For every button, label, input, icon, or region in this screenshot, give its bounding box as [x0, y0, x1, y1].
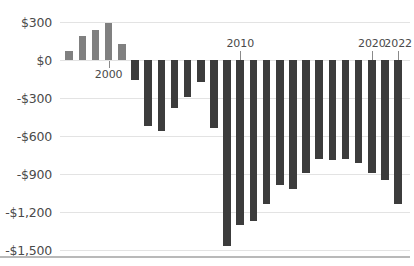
x-axis-tick-mark [398, 51, 399, 60]
bar [394, 60, 402, 204]
bar [184, 60, 192, 97]
bar [210, 60, 218, 128]
bar [131, 60, 139, 80]
x-axis-tick-label: 2020 [358, 37, 386, 50]
y-axis-tick-label: $0 [36, 53, 52, 68]
plot-area: 2000201020202022 [60, 0, 410, 250]
y-axis-tick-label: -$300 [17, 91, 52, 106]
y-axis-tick-label: -$600 [17, 129, 52, 144]
bar [158, 60, 166, 131]
bar [355, 60, 363, 163]
bar [105, 23, 113, 60]
bar [381, 60, 389, 180]
y-axis-tick-label: -$900 [17, 167, 52, 182]
bar [302, 60, 310, 173]
bar [250, 60, 258, 221]
bar [276, 60, 284, 185]
bar [342, 60, 350, 159]
bar [79, 36, 87, 60]
x-axis-tick-mark [372, 51, 373, 60]
bottom-axis-line [0, 256, 410, 258]
bar [171, 60, 179, 108]
bar-chart: 2000201020202022 $300$0-$300-$600-$900-$… [0, 0, 414, 266]
gridline [60, 250, 410, 251]
bar [65, 51, 73, 60]
x-axis-tick-label: 2022 [384, 37, 412, 50]
bar [92, 30, 100, 60]
bar [144, 60, 152, 126]
x-axis-tick-label: 2010 [226, 37, 254, 50]
bar [289, 60, 297, 189]
bar [223, 60, 231, 246]
x-axis-tick-mark [109, 61, 110, 68]
y-axis-tick-label: -$1,200 [5, 205, 52, 220]
bar [368, 60, 376, 173]
bar [329, 60, 337, 160]
bar [197, 60, 205, 82]
y-axis-tick-label: $300 [21, 15, 52, 30]
bar [315, 60, 323, 159]
bar [236, 60, 244, 225]
bar [118, 44, 126, 60]
x-axis-tick-label: 2000 [95, 68, 123, 81]
bar [263, 60, 271, 204]
x-axis-tick-mark [240, 51, 241, 60]
